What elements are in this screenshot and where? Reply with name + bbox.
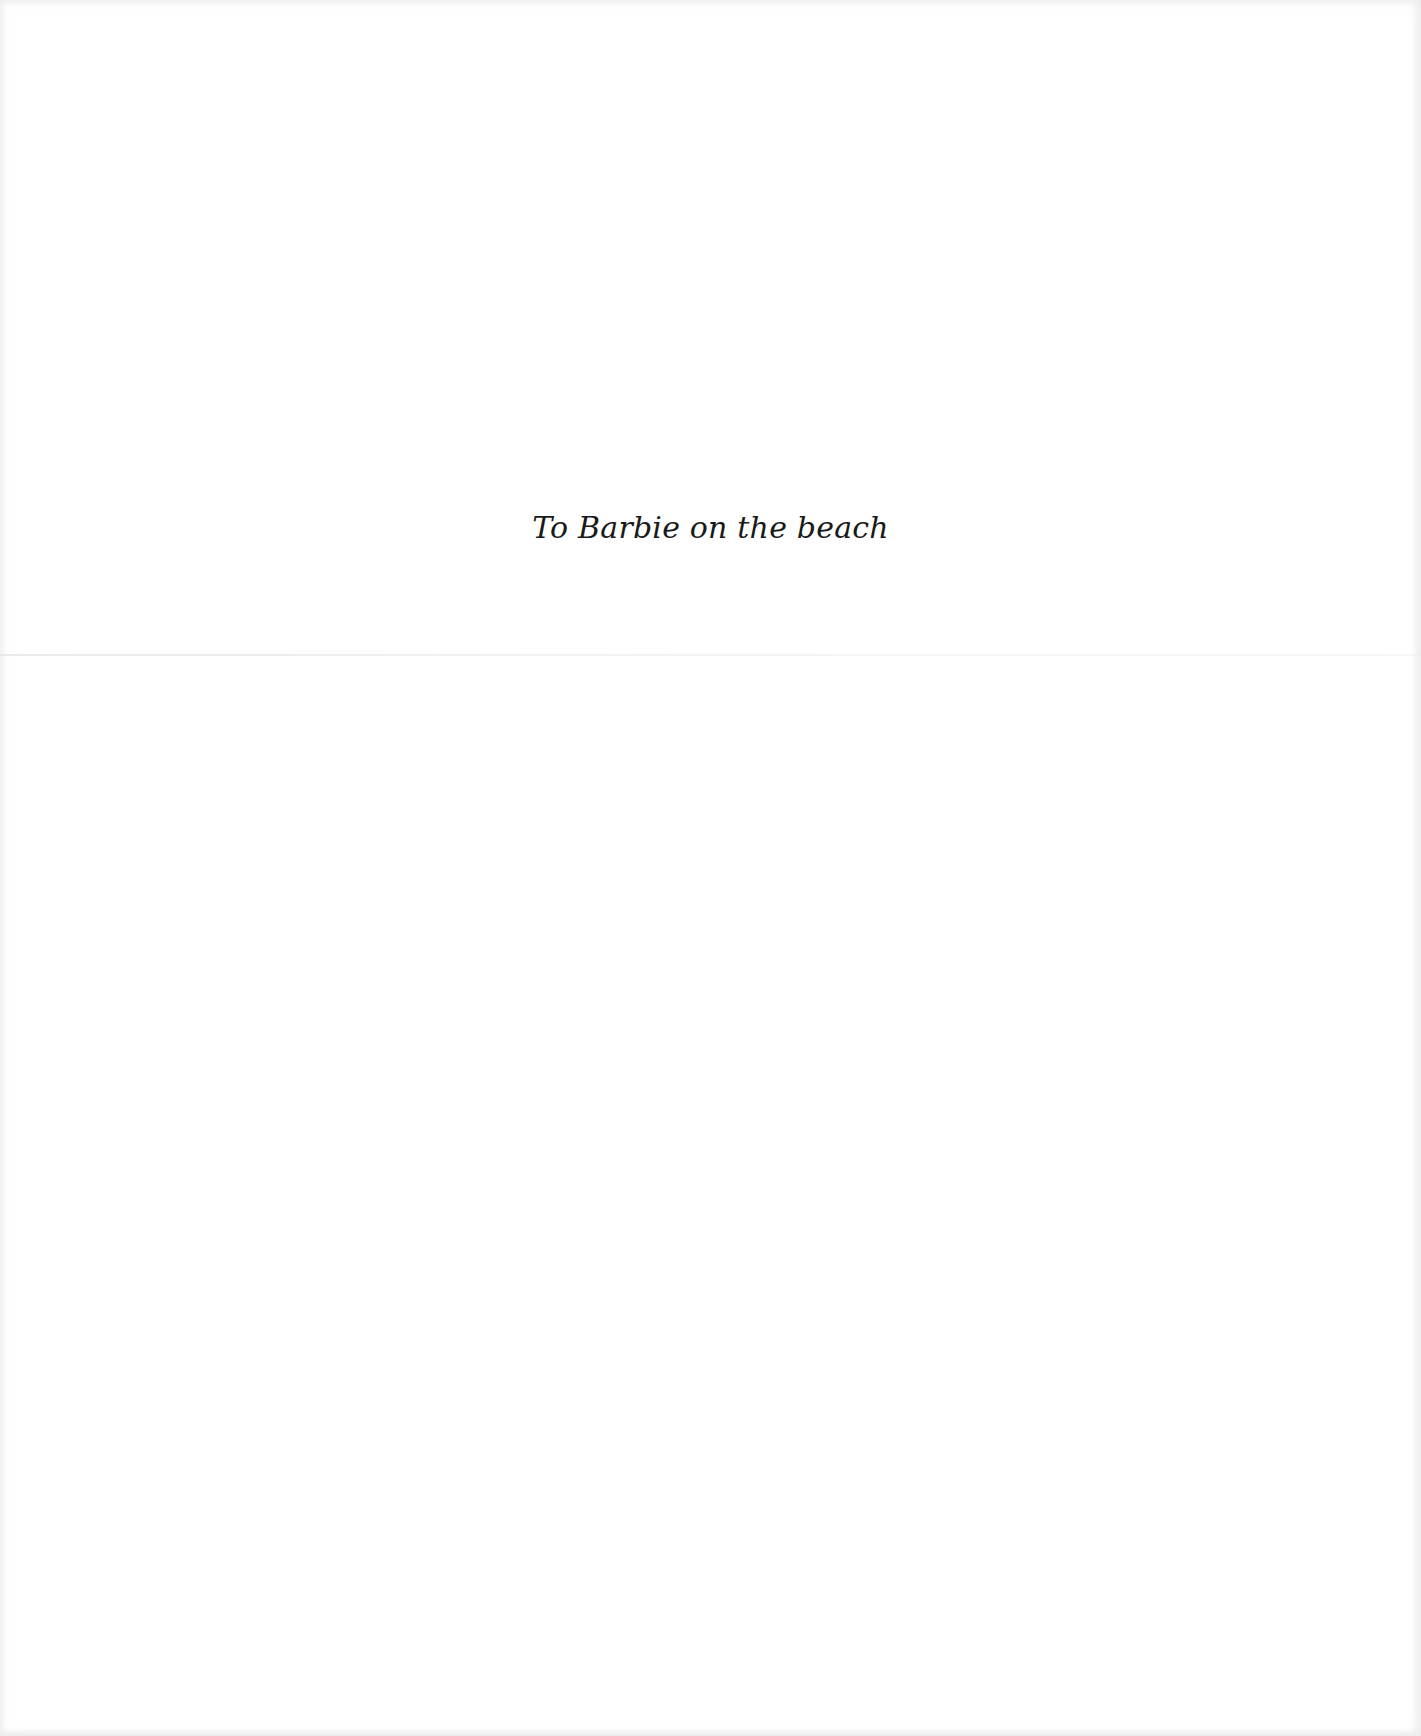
page-edge-top: [0, 0, 1421, 6]
page-edge-left: [0, 0, 6, 1736]
book-page: To Barbie on the beach: [0, 0, 1421, 1736]
page-edge-bottom: [0, 1728, 1421, 1736]
page-edge-right: [1411, 0, 1421, 1736]
dedication-text: To Barbie on the beach: [0, 510, 1421, 545]
page-fold-line: [0, 654, 1421, 656]
